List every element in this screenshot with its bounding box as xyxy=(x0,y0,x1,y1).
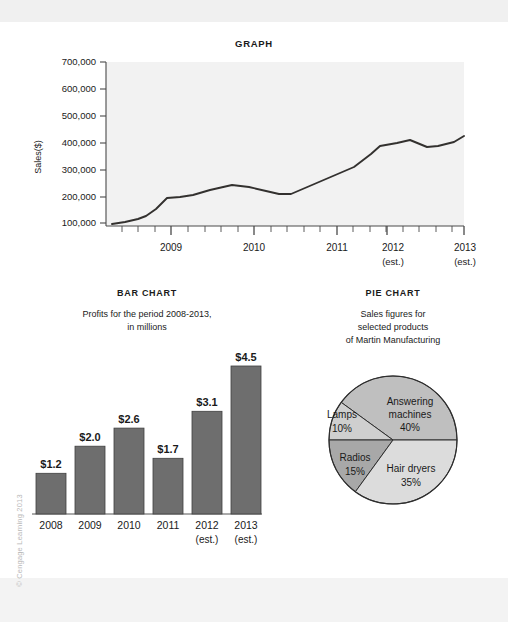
pie-label-lamps: Lamps xyxy=(327,409,357,420)
pie-chart-subtitle: Sales figures for selected products of M… xyxy=(288,308,498,347)
bar-chart-subtitle-line2: in millions xyxy=(127,322,167,332)
page-bottom-margin-band xyxy=(0,578,508,622)
y-tick-label: 600,000 xyxy=(62,83,96,94)
pie-label-radios: Radios xyxy=(339,452,370,463)
bar-category-label: 2011 xyxy=(157,519,180,531)
y-tick-label: 400,000 xyxy=(62,137,96,148)
x-tick-sublabel: (est.) xyxy=(454,256,476,267)
pie-chart-subtitle-line3: of Martin Manufacturing xyxy=(346,335,441,345)
x-tick-label: 2013 xyxy=(454,242,477,253)
bar-2008 xyxy=(36,473,66,514)
bar-value-label: $3.1 xyxy=(196,396,217,408)
line-graph-x-tick-labels: 2009 2010 2011 2012 2013 (est.) (est.) xyxy=(160,242,477,267)
bar-category-label: 2013 xyxy=(234,519,258,531)
bar-chart-figure: BAR CHART Profits for the period 2008-20… xyxy=(22,288,272,558)
y-tick-label: 100,000 xyxy=(62,217,96,228)
page-top-margin-band xyxy=(0,0,508,22)
bar-value-label: $1.2 xyxy=(40,458,61,470)
bar-2010 xyxy=(114,428,144,514)
y-tick-label: 300,000 xyxy=(62,164,96,175)
y-tick-label: 200,000 xyxy=(62,191,96,202)
pie-chart-title: PIE CHART xyxy=(288,288,498,298)
pie-value-radios: 15% xyxy=(345,466,365,477)
pie-label-hair-dryers: Hair dryers xyxy=(387,463,436,474)
line-graph-figure: GRAPH Sales($) 700,000 600,000 500,000 4… xyxy=(0,30,508,270)
bar-chart-canvas: $1.2 $2.0 $2.6 $1.7 $3.1 $4.5 2008 2009 … xyxy=(22,346,272,558)
pie-chart-subtitle-line1: Sales figures for xyxy=(360,309,425,319)
x-tick-label: 2012 xyxy=(382,242,405,253)
y-tick-label: 700,000 xyxy=(62,56,96,67)
pie-value-hair-dryers: 35% xyxy=(401,477,421,488)
bar-2012 xyxy=(192,411,222,514)
pie-label-answering-machines: Answering xyxy=(387,396,434,407)
y-tick-label: 500,000 xyxy=(62,110,96,121)
bar-category-label: 2008 xyxy=(39,519,63,531)
line-graph-canvas: 700,000 600,000 500,000 400,000 300,000 … xyxy=(0,30,508,270)
pie-value-answering-machines: 40% xyxy=(400,422,420,433)
bar-chart-value-labels: $1.2 $2.0 $2.6 $1.7 $3.1 $4.5 xyxy=(40,351,256,470)
pie-chart-canvas: Answering machines 40% Hair dryers 35% R… xyxy=(293,350,493,530)
bar-chart-category-labels: 2008 2009 2010 2011 2012 2013 (est.) (es… xyxy=(39,519,258,545)
bar-value-label: $2.6 xyxy=(118,413,139,425)
bar-chart-bars xyxy=(36,366,261,514)
bar-chart-title: BAR CHART xyxy=(22,288,272,298)
bar-chart-subtitle: Profits for the period 2008-2013, in mil… xyxy=(22,308,272,334)
pie-value-lamps: 10% xyxy=(332,423,352,434)
x-tick-label: 2010 xyxy=(243,242,266,253)
line-graph-y-tick-labels: 700,000 600,000 500,000 400,000 300,000 … xyxy=(62,56,96,228)
bar-2011 xyxy=(153,458,183,514)
bar-category-label: 2012 xyxy=(195,519,219,531)
bar-category-sublabel: (est.) xyxy=(196,534,219,545)
bar-value-label: $2.0 xyxy=(79,431,100,443)
bar-category-label: 2009 xyxy=(78,519,102,531)
x-tick-label: 2009 xyxy=(160,242,183,253)
line-graph-plot-area xyxy=(106,62,464,226)
bar-2009 xyxy=(75,446,105,514)
bar-category-sublabel: (est.) xyxy=(235,534,258,545)
pie-chart-figure: PIE CHART Sales figures for selected pro… xyxy=(288,288,498,558)
line-graph-y-ticks xyxy=(100,62,106,223)
bar-chart-subtitle-line1: Profits for the period 2008-2013, xyxy=(82,309,211,319)
pie-label-answering-machines-2: machines xyxy=(389,409,432,420)
bar-category-label: 2010 xyxy=(117,519,141,531)
bar-value-label: $1.7 xyxy=(157,443,178,455)
x-tick-sublabel: (est.) xyxy=(382,256,404,267)
pie-chart-subtitle-line2: selected products xyxy=(358,322,429,332)
bar-value-label: $4.5 xyxy=(235,351,256,363)
bar-2013 xyxy=(231,366,261,514)
x-tick-label: 2011 xyxy=(326,242,348,253)
line-graph-x-major-ticks xyxy=(171,226,464,235)
